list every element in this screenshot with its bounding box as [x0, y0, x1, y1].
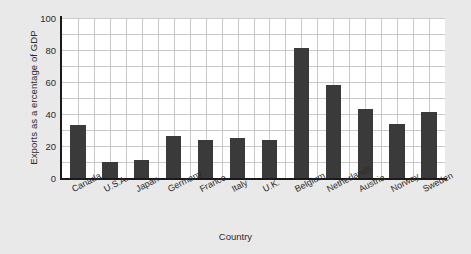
- bar: [262, 140, 277, 178]
- vertical-gridline: [190, 18, 191, 178]
- y-axis-tick-labels: 020406080100: [26, 18, 56, 178]
- bar: [389, 124, 404, 178]
- y-tick-label: 100: [26, 13, 56, 24]
- vertical-gridline: [349, 18, 350, 178]
- plot-area: [62, 18, 445, 178]
- y-tick-label: 0: [26, 173, 56, 184]
- bar: [134, 160, 149, 178]
- bar: [166, 136, 181, 178]
- y-tick-label: 80: [26, 45, 56, 56]
- bar: [421, 112, 436, 178]
- y-tick-label: 20: [26, 141, 56, 152]
- y-tick-label: 60: [26, 77, 56, 88]
- vertical-gridline: [254, 18, 255, 178]
- x-axis-tick-labels: CanadaU.S.A.JapanGermanyFranceItalyU.K.B…: [62, 181, 445, 227]
- bar: [294, 48, 309, 178]
- bar: [70, 125, 85, 178]
- vertical-gridline: [158, 18, 159, 178]
- vertical-gridline: [222, 18, 223, 178]
- bar: [326, 85, 341, 178]
- y-tick-label: 40: [26, 109, 56, 120]
- chart-figure: Exports as a ercentage of GDP 0204060801…: [0, 0, 471, 254]
- vertical-gridline: [110, 18, 111, 178]
- vertical-gridline: [126, 18, 127, 178]
- y-axis-line: [60, 16, 62, 180]
- bar: [102, 162, 117, 178]
- vertical-gridline: [285, 18, 286, 178]
- vertical-gridline: [94, 18, 95, 178]
- vertical-gridline: [381, 18, 382, 178]
- vertical-gridline: [317, 18, 318, 178]
- bar: [230, 138, 245, 178]
- vertical-gridline: [413, 18, 414, 178]
- x-axis-label: Country: [0, 231, 471, 242]
- vertical-gridline: [142, 18, 143, 178]
